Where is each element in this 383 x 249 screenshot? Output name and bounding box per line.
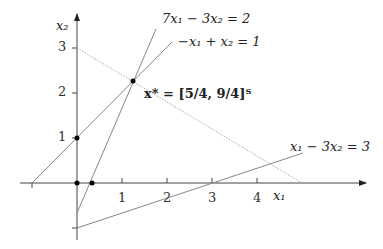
y-tick-1: 1 (58, 129, 66, 144)
point-2-7-0 (90, 181, 95, 186)
line-neg-x1-x2-1 (32, 42, 172, 183)
y-tick-3: 3 (58, 39, 66, 54)
x-axis-label: x₁ (273, 188, 286, 203)
label-line-2: −x₁ + x₂ = 1 (178, 34, 261, 49)
x-tick-1: 1 (118, 190, 126, 205)
x-tick-3: 3 (208, 190, 216, 205)
y-axis-label: x₂ (56, 18, 69, 33)
line-x1-3x2-3 (77, 153, 303, 228)
point-origin (75, 181, 80, 186)
point-0-1 (75, 136, 80, 141)
x-tick-2: 2 (163, 190, 171, 205)
label-line-1: 7x₁ − 3x₂ = 2 (162, 11, 250, 26)
objective-dotted-line (77, 48, 302, 183)
y-tick-2: 2 (58, 84, 66, 99)
solution-point (131, 79, 136, 84)
x-tick-4: 4 (253, 190, 261, 205)
line-7x1-3x2-2 (77, 29, 156, 213)
solution-label: x* = [5/4, 9/4]ᵀ (144, 86, 251, 101)
label-line-3: x₁ − 3x₂ = 3 (290, 139, 370, 154)
